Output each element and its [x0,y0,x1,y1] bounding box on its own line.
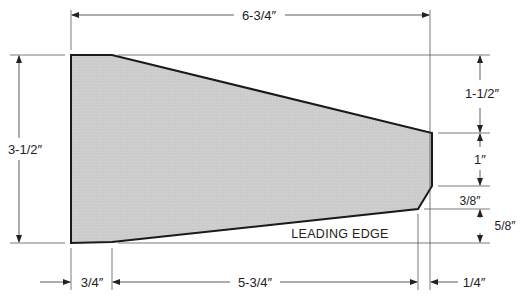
svg-text:3/4″: 3/4″ [81,275,104,290]
wing-template-diagram: 6-3/4″ 3-1/2″ 1-1/2″ 1″ 3/8″ 5/8″ 3/4″ 5… [0,0,526,303]
svg-text:5-3/4″: 5-3/4″ [238,275,273,290]
svg-text:5/8″: 5/8″ [495,219,517,233]
svg-text:1/4″: 1/4″ [463,275,486,290]
leading-edge-label: LEADING EDGE [291,227,388,241]
dimension-right-bevel: 3/8″ [460,194,482,208]
dimension-bottom-span: 5-3/4″ [113,275,417,290]
dimension-right-top: 1-1/2″ [465,56,500,132]
svg-text:1-1/2″: 1-1/2″ [465,86,500,101]
dimension-right-flat: 1″ [474,134,486,185]
svg-text:3-1/2″: 3-1/2″ [8,142,43,157]
dimension-overall-length: 6-3/4″ [72,8,429,23]
dimension-bottom-left: 3/4″ [40,275,104,290]
dimension-bottom-bevel: 1/4″ [431,275,486,290]
dimension-overall-height: 3-1/2″ [8,56,43,242]
dimension-right-bottom: 5/8″ [480,210,516,242]
wing-shape [71,55,432,243]
svg-text:1″: 1″ [474,152,486,167]
svg-text:6-3/4″: 6-3/4″ [242,8,277,23]
